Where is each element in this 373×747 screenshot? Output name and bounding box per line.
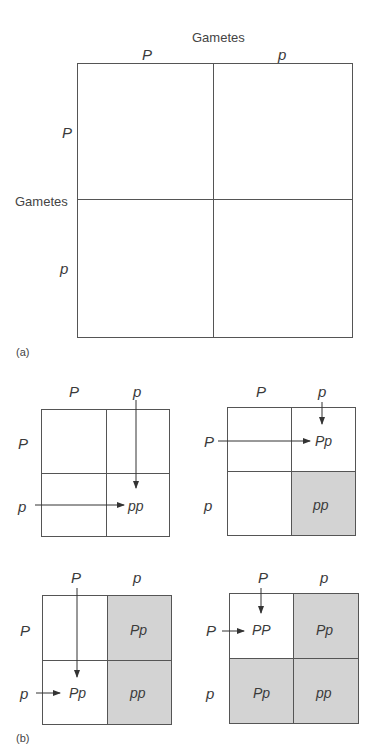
- arrows-layer: [0, 0, 373, 747]
